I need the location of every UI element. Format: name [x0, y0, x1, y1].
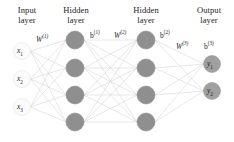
- neuron-h1_3: [66, 86, 84, 104]
- edge-x2-h1_3: [31, 79, 67, 95]
- neuron-label-y1: y1: [207, 59, 213, 70]
- edge-x2-h1_4: [31, 79, 67, 122]
- param-label-superscript: (2): [164, 29, 170, 35]
- param-label-w2: W(2): [114, 29, 126, 40]
- edge-x1-h1_4: [31, 51, 67, 122]
- neuron-h2_1: [137, 31, 155, 49]
- param-label-w1: W(1): [36, 33, 48, 44]
- param-label-b1: b(1): [90, 29, 100, 40]
- edge-h2_2-y1: [155, 64, 204, 68]
- neuron-label-y2: y2: [207, 86, 213, 97]
- layer-title-hidden2: Hidden layer: [122, 6, 170, 25]
- edge-x3-h1_4: [31, 107, 67, 122]
- param-label-superscript: (3): [182, 40, 188, 46]
- neuron-label-subscript: 3: [20, 106, 23, 112]
- neuron-label-subscript: 2: [20, 78, 23, 84]
- neuron-h2_2: [137, 59, 155, 77]
- neuron-label-subscript: 2: [210, 90, 213, 96]
- neuron-h2_3: [137, 86, 155, 104]
- edge-h2_4-y2: [155, 91, 204, 122]
- layer-title-input: Input layer: [5, 6, 49, 25]
- neuron-label-subscript: 1: [20, 50, 23, 56]
- param-label-superscript: (1): [42, 33, 48, 39]
- neural-network-diagram: Input layerHidden layerHidden layerOutpu…: [0, 0, 234, 142]
- neuron-label-x1: x1: [17, 46, 23, 57]
- param-label-b3: b(3): [204, 40, 214, 51]
- neuron-label-subscript: 1: [210, 63, 213, 69]
- param-label-b2: b(2): [160, 29, 170, 40]
- param-label-superscript: (1): [94, 29, 100, 35]
- neuron-h1_4: [66, 113, 84, 131]
- param-label-superscript: (2): [120, 29, 126, 35]
- layer-title-hidden1: Hidden layer: [52, 6, 100, 25]
- edge-h2_4-y1: [155, 64, 204, 122]
- param-label-superscript: (3): [208, 40, 214, 46]
- edge-h2_3-y1: [155, 64, 204, 95]
- neuron-label-x2: x2: [17, 74, 23, 85]
- neuron-h1_1: [66, 31, 84, 49]
- neuron-h1_2: [66, 59, 84, 77]
- param-label-w3: W(3): [176, 40, 188, 51]
- edges-group: [31, 40, 204, 122]
- neuron-label-x3: x3: [17, 102, 23, 113]
- layer-title-output: Output layer: [186, 6, 232, 25]
- neuron-h2_4: [137, 113, 155, 131]
